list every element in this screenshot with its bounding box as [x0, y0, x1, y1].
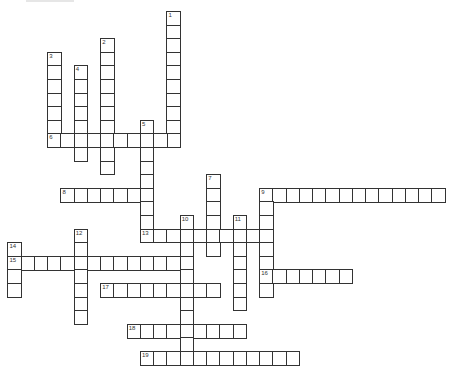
- clue-number: 9: [261, 189, 264, 196]
- crossword-cell[interactable]: [166, 283, 181, 298]
- crossword-cell[interactable]: [233, 297, 248, 312]
- crossword-cell[interactable]: [60, 256, 75, 271]
- crossword-cell[interactable]: [166, 229, 181, 244]
- crossword-cell[interactable]: [60, 133, 75, 148]
- clue-number: 19: [142, 352, 149, 359]
- crossword-grid: 12364513789161011121415171819: [0, 0, 454, 372]
- crossword-cell[interactable]: [127, 133, 142, 148]
- clue-number: 13: [142, 230, 149, 237]
- crossword-cell[interactable]: [219, 229, 234, 244]
- crossword-cell[interactable]: [246, 229, 261, 244]
- clue-number: 10: [182, 216, 189, 223]
- clue-number: 18: [129, 325, 136, 332]
- clue-number: 11: [235, 216, 241, 223]
- crossword-cell[interactable]: [166, 324, 181, 339]
- crossword-cell[interactable]: [166, 351, 181, 366]
- crossword-cell[interactable]: [206, 283, 221, 298]
- crossword-cell[interactable]: [87, 133, 102, 148]
- clue-number: 5: [142, 121, 145, 128]
- crossword-cell[interactable]: [100, 161, 115, 176]
- clue-number: 7: [208, 175, 211, 182]
- crossword-cell[interactable]: [166, 256, 181, 271]
- clue-number: 1: [168, 12, 171, 19]
- crossword-cell[interactable]: [431, 188, 446, 203]
- crossword-cell[interactable]: [153, 133, 168, 148]
- crossword-cell[interactable]: [74, 147, 89, 162]
- crossword-cell[interactable]: [7, 283, 22, 298]
- clue-number: 15: [9, 257, 16, 264]
- crossword-cell[interactable]: [206, 242, 221, 257]
- clue-number: 6: [49, 134, 52, 141]
- clue-number: 12: [76, 230, 83, 237]
- crossword-cell[interactable]: [286, 351, 301, 366]
- clue-number: 3: [49, 53, 52, 60]
- crossword-cell[interactable]: [259, 283, 274, 298]
- crossword-cell[interactable]: [127, 188, 142, 203]
- crossword-cell[interactable]: [166, 133, 181, 148]
- clue-number: 16: [261, 270, 268, 277]
- clue-number: 2: [102, 39, 105, 46]
- crossword-cell[interactable]: [233, 324, 248, 339]
- clue-number: 14: [9, 243, 16, 250]
- faded-header-text: [26, 0, 74, 2]
- clue-number: 4: [76, 66, 79, 73]
- clue-number: 8: [62, 189, 65, 196]
- crossword-cell[interactable]: [74, 310, 89, 325]
- crossword-cell[interactable]: [339, 269, 354, 284]
- crossword-cell[interactable]: [193, 229, 208, 244]
- clue-number: 17: [102, 284, 109, 291]
